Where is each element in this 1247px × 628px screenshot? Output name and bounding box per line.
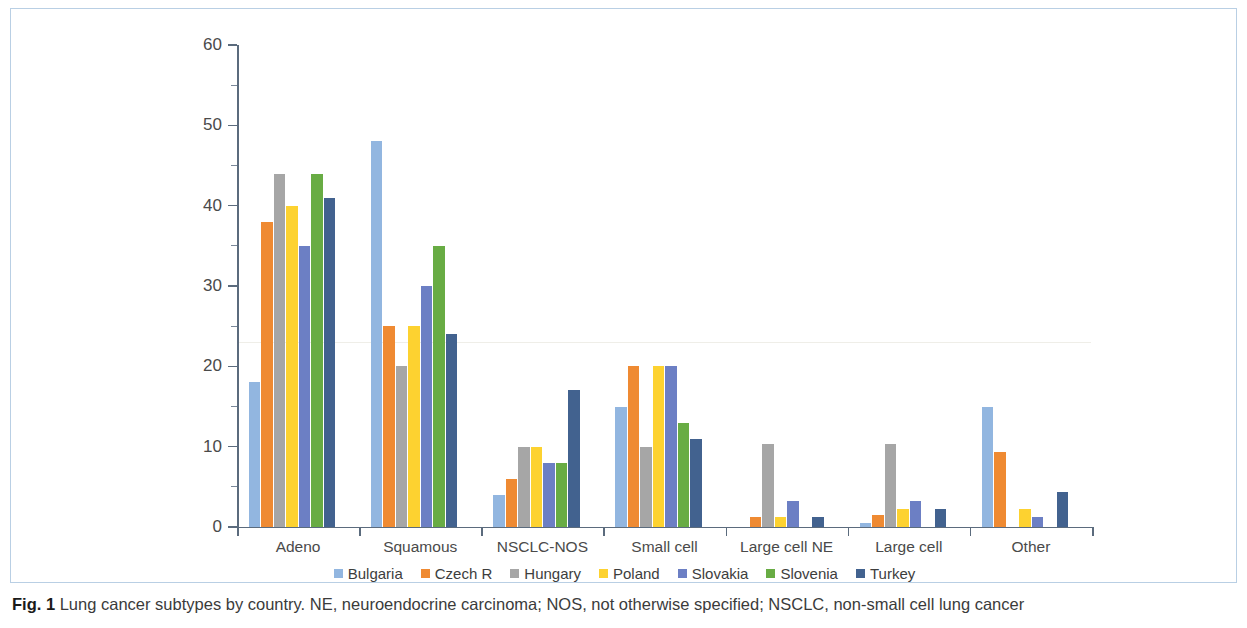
bar-hungary-adeno xyxy=(274,174,286,527)
legend-swatch-icon xyxy=(856,569,865,578)
y-axis-major-tick xyxy=(228,285,237,287)
y-axis-major-tick xyxy=(228,125,237,127)
y-axis-major-tick xyxy=(228,366,237,368)
bar-czech-r-large-cell xyxy=(872,515,884,527)
page-left-edge xyxy=(0,0,2,628)
bar-czech-r-adeno xyxy=(261,222,273,527)
bar-hungary-small-cell xyxy=(640,447,652,527)
bar-czech-r-other xyxy=(994,452,1006,527)
chart-plot-area: 0102030405060 AdenoSquamousNSCLC-NOSSmal… xyxy=(11,9,1238,584)
y-axis-tick-label: 40 xyxy=(182,197,222,214)
legend-swatch-icon xyxy=(334,569,343,578)
y-axis-tick-label: 60 xyxy=(182,36,222,53)
bar-poland-nsclc-nos xyxy=(531,447,543,527)
bar-poland-small-cell xyxy=(653,366,665,527)
bar-czech-r-large-cell-ne xyxy=(750,517,762,527)
bar-poland-squamous xyxy=(408,326,420,527)
bars-layer xyxy=(237,45,1092,527)
bar-slovakia-small-cell xyxy=(665,366,677,527)
y-axis-major-tick xyxy=(228,44,237,46)
bar-turkey-large-cell xyxy=(935,509,947,527)
bar-hungary-large-cell xyxy=(885,444,897,527)
x-axis-label-other: Other xyxy=(1012,538,1051,556)
figure-caption-label: Fig. 1 xyxy=(12,595,55,613)
x-axis-tick xyxy=(603,527,605,536)
x-axis-tick xyxy=(237,527,239,536)
legend-label: Slovakia xyxy=(692,565,749,582)
bar-turkey-small-cell xyxy=(690,439,702,527)
x-axis-label-large-cell: Large cell xyxy=(875,538,942,556)
y-axis-tick-label: 20 xyxy=(182,357,222,374)
bar-slovakia-large-cell xyxy=(910,501,922,528)
legend-swatch-icon xyxy=(599,569,608,578)
bar-slovakia-adeno xyxy=(299,246,311,527)
legend-label: Turkey xyxy=(870,565,915,582)
legend-swatch-icon xyxy=(766,569,775,578)
legend-item-slovenia: Slovenia xyxy=(766,565,838,582)
bar-poland-adeno xyxy=(286,206,298,527)
y-axis-tick-label: 30 xyxy=(182,277,222,294)
x-axis-label-nsclc-nos: NSCLC-NOS xyxy=(497,538,588,556)
bar-bulgaria-nsclc-nos xyxy=(493,495,505,527)
y-axis-major-tick xyxy=(228,446,237,448)
bar-turkey-other xyxy=(1057,492,1069,527)
bar-bulgaria-large-cell xyxy=(860,523,872,527)
figure-frame: 0102030405060 AdenoSquamousNSCLC-NOSSmal… xyxy=(10,8,1237,583)
bar-slovenia-squamous xyxy=(433,246,445,527)
legend-item-czech-r: Czech R xyxy=(421,565,493,582)
y-axis-tick-label: 10 xyxy=(182,438,222,455)
legend-item-poland: Poland xyxy=(599,565,660,582)
bar-poland-large-cell-ne xyxy=(775,517,787,527)
x-axis-label-squamous: Squamous xyxy=(383,538,457,556)
x-axis-tick xyxy=(481,527,483,536)
legend-label: Poland xyxy=(613,565,660,582)
bar-bulgaria-small-cell xyxy=(615,407,627,528)
legend-label: Czech R xyxy=(435,565,493,582)
bar-turkey-adeno xyxy=(324,198,336,527)
y-axis-major-tick xyxy=(228,526,237,528)
legend-label: Bulgaria xyxy=(348,565,403,582)
figure-caption-text: Lung cancer subtypes by country. NE, neu… xyxy=(60,595,1025,613)
bar-hungary-large-cell-ne xyxy=(762,444,774,527)
legend-swatch-icon xyxy=(421,569,430,578)
legend-item-slovakia: Slovakia xyxy=(678,565,749,582)
legend-item-hungary: Hungary xyxy=(510,565,581,582)
x-axis-label-large-cell-ne: Large cell NE xyxy=(740,538,833,556)
figure-caption: Fig. 1 Lung cancer subtypes by country. … xyxy=(12,594,1237,615)
bar-czech-r-small-cell xyxy=(628,366,640,527)
bar-hungary-nsclc-nos xyxy=(518,447,530,527)
bar-slovakia-squamous xyxy=(421,286,433,527)
bar-hungary-squamous xyxy=(396,366,408,527)
bar-slovenia-nsclc-nos xyxy=(556,463,568,527)
legend-swatch-icon xyxy=(678,569,687,578)
bar-slovenia-small-cell xyxy=(678,423,690,527)
legend-item-turkey: Turkey xyxy=(856,565,915,582)
bar-bulgaria-other xyxy=(982,407,994,528)
x-axis-tick xyxy=(359,527,361,536)
bar-slovakia-large-cell-ne xyxy=(787,501,799,527)
legend-label: Slovenia xyxy=(780,565,838,582)
bar-turkey-nsclc-nos xyxy=(568,390,580,527)
chart-legend: BulgariaCzech RHungaryPolandSlovakiaSlov… xyxy=(11,565,1238,582)
figure-page: 0102030405060 AdenoSquamousNSCLC-NOSSmal… xyxy=(0,0,1247,628)
legend-label: Hungary xyxy=(524,565,581,582)
bar-poland-other xyxy=(1019,509,1031,527)
x-axis-tick xyxy=(970,527,972,536)
bar-czech-r-squamous xyxy=(383,326,395,527)
x-axis-tick xyxy=(726,527,728,536)
bar-czech-r-nsclc-nos xyxy=(506,479,518,527)
bar-poland-large-cell xyxy=(897,509,909,527)
legend-item-bulgaria: Bulgaria xyxy=(334,565,403,582)
bar-bulgaria-adeno xyxy=(249,382,261,527)
x-axis-tick xyxy=(1092,527,1094,536)
bar-slovenia-adeno xyxy=(311,174,323,527)
bar-turkey-large-cell-ne xyxy=(812,517,824,527)
bar-slovakia-other xyxy=(1032,517,1044,527)
y-axis-tick-label: 50 xyxy=(182,116,222,133)
y-axis-tick-label: 0 xyxy=(182,518,222,535)
legend-swatch-icon xyxy=(510,569,519,578)
x-axis-label-adeno: Adeno xyxy=(276,538,321,556)
bar-bulgaria-squamous xyxy=(371,141,383,527)
bar-turkey-squamous xyxy=(446,334,458,527)
bar-slovakia-nsclc-nos xyxy=(543,463,555,527)
